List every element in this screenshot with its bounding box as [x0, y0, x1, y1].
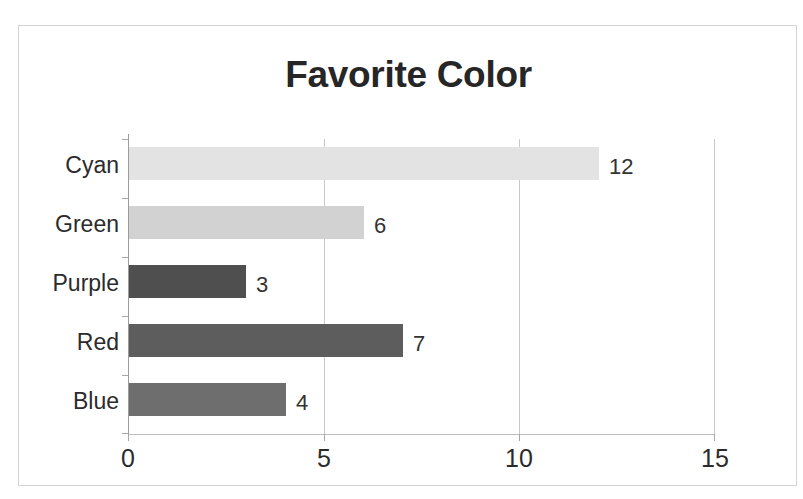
chart-container: Favorite Color Cyan Green Purple Red Blu…: [18, 25, 797, 486]
y-axis-label-purple: Purple: [53, 272, 119, 295]
y-axis-tick-2: [122, 257, 128, 258]
plot-area: 12 6 3 7 4: [128, 139, 715, 434]
bar-value-purple: 3: [256, 274, 268, 296]
bar-value-red: 7: [413, 333, 425, 355]
x-axis-tick-label-0: 0: [121, 446, 135, 471]
x-axis-tick-5: [324, 434, 325, 441]
bar-cyan[interactable]: [129, 147, 599, 180]
y-axis-label-blue: Blue: [73, 390, 119, 413]
x-axis-tick-label-15: 15: [701, 446, 729, 471]
gridline-15: [714, 139, 715, 434]
x-axis-tick-15: [714, 434, 715, 441]
bar-red[interactable]: [129, 324, 403, 357]
x-axis-line: [128, 434, 715, 435]
bar-value-green: 6: [374, 215, 386, 237]
x-axis-tick-label-10: 10: [505, 446, 533, 471]
x-axis-tick-label-5: 5: [317, 446, 331, 471]
bar-value-blue: 4: [296, 392, 308, 414]
y-axis-label-cyan: Cyan: [65, 154, 119, 177]
gridline-10: [519, 139, 520, 434]
y-axis-tick-4: [122, 375, 128, 376]
x-axis-tick-0: [128, 434, 129, 441]
chart-title: Favorite Color: [19, 54, 797, 96]
y-axis-tick-3: [122, 316, 128, 317]
y-axis-tick-1: [122, 198, 128, 199]
y-axis-label-red: Red: [77, 331, 119, 354]
bar-green[interactable]: [129, 206, 364, 239]
y-axis-labels: Cyan Green Purple Red Blue: [19, 139, 119, 434]
bar-purple[interactable]: [129, 265, 246, 298]
y-axis-label-green: Green: [55, 213, 119, 236]
bar-value-cyan: 12: [609, 156, 633, 178]
bar-blue[interactable]: [129, 383, 286, 416]
x-axis-tick-10: [519, 434, 520, 441]
gridline-5: [324, 139, 325, 434]
y-axis-tick-0: [122, 139, 128, 140]
